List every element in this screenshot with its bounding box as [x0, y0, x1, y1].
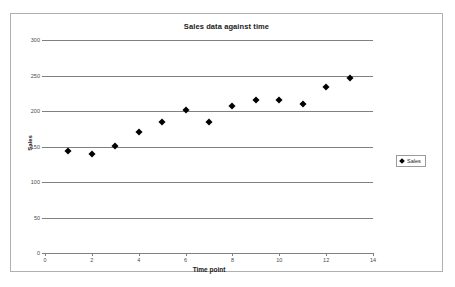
y-gridline: [45, 253, 373, 254]
data-point: [323, 83, 330, 90]
x-tick-label: 10: [276, 257, 282, 263]
x-tick-label: 14: [370, 257, 376, 263]
y-tick-label: 0: [37, 250, 40, 256]
x-tick-mark: [279, 253, 280, 256]
data-point: [112, 142, 119, 149]
y-gridline: [45, 218, 373, 219]
y-gridline: [45, 40, 373, 41]
x-tick-label: 2: [90, 257, 93, 263]
y-tick-label: 100: [31, 179, 40, 185]
x-axis-title: Time point: [45, 266, 373, 273]
y-tick-label: 50: [34, 215, 40, 221]
y-tick-label: 200: [31, 108, 40, 114]
y-tick-label: 250: [31, 73, 40, 79]
legend-marker-icon: [399, 158, 405, 164]
data-point: [182, 107, 189, 114]
data-point: [346, 75, 353, 82]
data-point: [252, 97, 259, 104]
plot-area: 05010015020025030002468101214: [45, 40, 373, 253]
y-gridline: [45, 111, 373, 112]
x-tick-mark: [92, 253, 93, 256]
x-tick-label: 6: [184, 257, 187, 263]
y-tick-mark: [42, 147, 45, 148]
y-gridline: [45, 182, 373, 183]
y-tick-mark: [42, 76, 45, 77]
data-point: [65, 148, 72, 155]
x-tick-mark: [139, 253, 140, 256]
y-tick-label: 300: [31, 37, 40, 43]
x-tick-mark: [326, 253, 327, 256]
x-tick-label: 0: [43, 257, 46, 263]
x-tick-mark: [45, 253, 46, 256]
x-tick-label: 8: [231, 257, 234, 263]
y-tick-mark: [42, 40, 45, 41]
x-tick-mark: [186, 253, 187, 256]
data-point: [299, 100, 306, 107]
chart-frame: Sales data against time Sales 0501001502…: [10, 13, 443, 272]
x-tick-label: 4: [137, 257, 140, 263]
data-point: [229, 102, 236, 109]
chart-title: Sales data against time: [11, 22, 442, 31]
x-tick-mark: [373, 253, 374, 256]
data-point: [135, 129, 142, 136]
y-tick-mark: [42, 111, 45, 112]
data-point: [88, 151, 95, 158]
x-tick-label: 12: [323, 257, 329, 263]
chart-legend: Sales: [396, 155, 426, 167]
y-tick-label: 150: [31, 144, 40, 150]
y-tick-mark: [42, 182, 45, 183]
data-point: [159, 119, 166, 126]
data-point: [205, 119, 212, 126]
data-point: [276, 96, 283, 103]
y-gridline: [45, 147, 373, 148]
legend-label: Sales: [407, 158, 421, 164]
y-gridline: [45, 76, 373, 77]
y-tick-mark: [42, 218, 45, 219]
x-tick-mark: [232, 253, 233, 256]
